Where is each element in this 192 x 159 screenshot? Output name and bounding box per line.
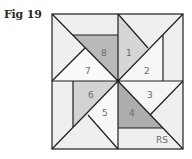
piece-label-3: 3 — [147, 90, 153, 100]
piece-label-8: 8 — [101, 48, 107, 58]
piece-label-2: 2 — [144, 66, 150, 76]
quilt-block-diagram: 8 1 7 2 6 3 5 4 RS — [0, 0, 192, 159]
piece-label-5: 5 — [102, 108, 108, 118]
center-point — [116, 79, 119, 82]
piece-label-6: 6 — [88, 90, 94, 100]
piece-label-1: 1 — [126, 48, 132, 58]
piece-label-7: 7 — [85, 66, 91, 76]
piece-label-4: 4 — [129, 108, 135, 118]
corner-tag: RS — [156, 135, 168, 145]
quilt-block: 8 1 7 2 6 3 5 4 RS — [52, 14, 183, 149]
